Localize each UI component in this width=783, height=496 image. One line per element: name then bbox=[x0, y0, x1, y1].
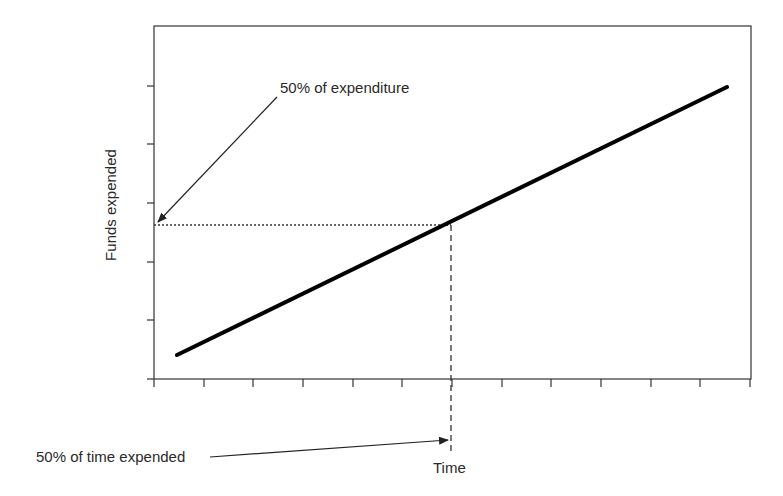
y-axis-ticks bbox=[147, 86, 154, 379]
y-axis-label: Funds expended bbox=[102, 149, 119, 261]
x-axis-label: Time bbox=[433, 459, 466, 476]
plot-frame bbox=[154, 26, 751, 379]
x-axis-ticks bbox=[154, 379, 750, 387]
annotation-expenditure-label: 50% of expenditure bbox=[280, 79, 409, 96]
funds-expended-line bbox=[177, 87, 727, 355]
annotation-time-label: 50% of time expended bbox=[36, 448, 185, 465]
expenditure-annotation-arrow bbox=[158, 97, 277, 222]
time-annotation-arrow bbox=[210, 440, 448, 457]
chart-canvas: 50% of expenditure 50% of time expended … bbox=[0, 0, 783, 496]
